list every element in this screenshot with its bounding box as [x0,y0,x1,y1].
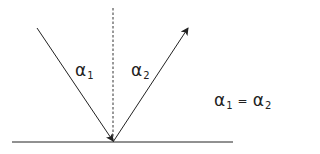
incident-ray [37,28,113,141]
reflected-angle-symbol: α [131,60,142,80]
equation-operator: = [238,94,248,108]
equation-right-symbol: α [253,90,264,110]
reflected-angle-subscript: 2 [143,70,149,81]
incident-angle-subscript: 1 [87,70,93,81]
equation-left-symbol: α [214,90,225,110]
equation-label: α1=α2 [214,92,271,109]
incident-angle-symbol: α [75,60,86,80]
incident-angle-label: α1 [75,62,94,79]
reflected-angle-label: α2 [131,62,150,79]
equation-left-subscript: 1 [226,100,232,111]
reflected-ray [113,28,188,142]
equation-right-subscript: 2 [265,100,271,111]
